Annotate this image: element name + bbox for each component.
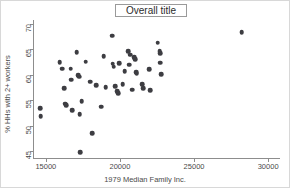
data-point — [159, 72, 164, 77]
chart-title-box: Overall title — [115, 4, 187, 17]
data-point — [116, 91, 121, 96]
data-point — [94, 83, 99, 88]
data-point — [141, 86, 146, 91]
data-point — [38, 114, 43, 119]
data-point — [69, 78, 74, 83]
data-point — [148, 88, 153, 93]
data-point — [70, 108, 75, 113]
data-point — [62, 86, 67, 91]
y-axis-tick-label-wrap: 45 — [34, 151, 35, 152]
data-point — [158, 60, 163, 65]
y-axis-tick-label-wrap: 70 — [34, 24, 35, 25]
chart-screenshot: Overall title % HHs with 2+ workers 4550… — [0, 0, 290, 188]
data-point — [57, 60, 62, 65]
x-axis-tick-label: 25000 — [184, 163, 205, 171]
data-point — [155, 41, 160, 46]
x-axis-tick-label: 30000 — [258, 163, 279, 171]
data-point — [88, 80, 93, 85]
plot-frame: 455055606570 15000200002500030000 — [33, 20, 280, 159]
data-point — [120, 82, 125, 87]
y-axis-tick-label: 60 — [25, 75, 33, 83]
y-axis-tick-label-wrap: 55 — [34, 100, 35, 101]
data-point — [104, 85, 109, 90]
data-point — [101, 54, 106, 59]
data-point — [111, 64, 116, 69]
y-axis-tick-label: 70 — [25, 24, 33, 32]
data-point — [77, 75, 82, 80]
data-point — [147, 67, 152, 72]
data-point — [38, 106, 43, 111]
y-axis-title: % HHs with 2+ workers — [3, 55, 12, 133]
y-axis-tick-label-wrap: 65 — [34, 49, 35, 50]
data-point — [90, 131, 95, 136]
data-point — [158, 51, 163, 56]
data-point — [133, 57, 138, 62]
x-axis-tick-label: 15000 — [35, 163, 56, 171]
x-axis-tick-label: 20000 — [110, 163, 131, 171]
data-point — [79, 99, 84, 104]
data-point — [130, 87, 135, 92]
data-point — [74, 50, 79, 55]
y-axis-tick-label: 50 — [25, 126, 33, 134]
y-axis-tick-label: 55 — [25, 100, 33, 108]
y-axis-tick-label: 65 — [25, 49, 33, 57]
data-point — [117, 61, 122, 66]
data-point — [69, 66, 74, 71]
data-point — [64, 103, 69, 108]
data-point — [135, 71, 140, 76]
x-axis-title: 1979 Median Family Inc. — [1, 175, 289, 184]
y-axis-tick-label-wrap: 50 — [34, 126, 35, 127]
page-title: Overall title — [126, 5, 176, 16]
data-point — [127, 62, 132, 67]
data-point — [239, 30, 244, 35]
data-point — [110, 33, 115, 38]
y-axis-tick-label-wrap: 60 — [34, 75, 35, 76]
data-point — [77, 112, 82, 117]
data-point — [60, 66, 65, 71]
data-point — [99, 104, 104, 109]
y-axis-tick-label: 45 — [25, 151, 33, 159]
data-point — [78, 150, 83, 155]
scatter-plot-area — [34, 20, 280, 158]
data-point — [122, 69, 127, 74]
data-point — [83, 59, 88, 64]
